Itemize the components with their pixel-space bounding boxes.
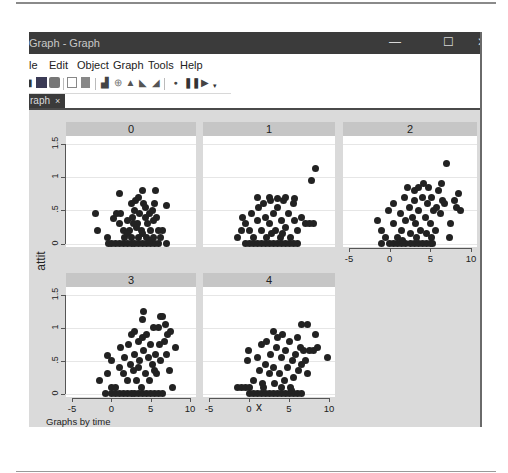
toolbar: ▮ ▟ ⊕ ▲ ◣ ◢ ● ❚❚ ▶ ▾ <box>29 74 480 94</box>
data-point <box>268 230 275 237</box>
x-tick <box>111 398 112 402</box>
data-point <box>143 331 150 338</box>
data-point <box>279 230 286 237</box>
minimize-button[interactable]: — <box>389 35 401 49</box>
data-point <box>147 341 154 348</box>
window-title: Graph - Graph <box>29 37 100 49</box>
data-point <box>116 190 123 197</box>
x-tick <box>390 248 391 252</box>
open-icon[interactable]: ▮ <box>29 77 35 88</box>
x-tick-label: 10 <box>461 253 481 264</box>
data-point <box>159 390 166 397</box>
data-point <box>374 217 381 224</box>
y-tick <box>61 210 65 211</box>
save-icon[interactable] <box>36 77 47 88</box>
gridline <box>203 295 335 296</box>
tab-graph[interactable]: raph× <box>29 94 65 108</box>
data-point <box>146 377 153 384</box>
graph-area[interactable]: attit x Graphs by time 00.511.512-505103… <box>29 110 480 427</box>
pause-icon[interactable]: ❚❚ <box>184 77 195 88</box>
data-point <box>131 328 138 335</box>
data-point <box>266 194 273 201</box>
data-point <box>94 227 101 234</box>
data-point <box>401 194 408 201</box>
data-point <box>159 227 166 234</box>
data-point <box>157 234 164 241</box>
menu-tools[interactable]: Tools <box>148 59 174 71</box>
data-point <box>276 370 283 377</box>
data-point <box>390 200 397 207</box>
dropdown-icon[interactable]: ▾ <box>209 80 220 91</box>
paste-icon[interactable] <box>81 77 90 88</box>
plot-region <box>203 287 335 397</box>
y-tick <box>61 328 65 329</box>
title-bar[interactable]: Graph - Graph — ☐ ✕ <box>29 32 480 54</box>
y-tick <box>61 144 65 145</box>
data-point <box>96 377 103 384</box>
data-point <box>125 341 132 348</box>
toolbar-separator <box>63 78 64 90</box>
gridline <box>203 177 335 178</box>
data-point <box>291 195 298 202</box>
panel-header: 1 <box>203 122 335 136</box>
x-tick <box>209 398 210 402</box>
y-tick-label: 1 <box>50 319 60 335</box>
menu-file[interactable]: le <box>29 59 38 71</box>
maximize-button[interactable]: ☐ <box>443 35 454 49</box>
pointer-icon[interactable]: ▲ <box>125 77 136 88</box>
data-point <box>166 367 173 374</box>
x-tick-label: -5 <box>62 403 82 414</box>
data-point <box>266 370 273 377</box>
data-point <box>390 220 397 227</box>
data-point <box>308 177 315 184</box>
y-axis-title: attit <box>34 251 48 270</box>
data-point <box>263 338 270 345</box>
gridline <box>343 177 477 178</box>
data-point <box>139 187 146 194</box>
record-icon[interactable]: ● <box>170 77 181 88</box>
graph-editor-icon[interactable]: ▟ <box>99 77 110 88</box>
copy-icon[interactable] <box>67 77 77 88</box>
data-point <box>153 214 160 221</box>
add-line-icon[interactable]: ◢ <box>150 77 161 88</box>
data-point <box>140 308 147 315</box>
data-point <box>399 237 406 244</box>
close-button[interactable]: ✕ <box>477 35 482 49</box>
data-point <box>285 210 292 217</box>
data-point <box>266 220 273 227</box>
data-point <box>238 227 245 234</box>
data-point <box>163 202 170 209</box>
data-point <box>302 357 309 364</box>
add-text-icon[interactable]: ◣ <box>137 77 148 88</box>
data-point <box>295 367 302 374</box>
data-point <box>245 347 252 354</box>
menu-graph[interactable]: Graph <box>113 59 144 71</box>
data-point <box>385 207 392 214</box>
x-axis-line <box>72 398 190 399</box>
tab-close-icon[interactable]: × <box>55 96 60 106</box>
properties-icon[interactable]: ⊕ <box>112 77 123 88</box>
data-point <box>279 331 286 338</box>
y-tick-label: .5 <box>50 352 60 368</box>
data-point <box>250 377 257 384</box>
print-icon[interactable] <box>49 77 60 88</box>
data-point <box>155 324 162 331</box>
menu-edit[interactable]: Edit <box>49 59 68 71</box>
panel-header: 3 <box>66 273 196 287</box>
data-point <box>298 390 305 397</box>
menu-help[interactable]: Help <box>180 59 203 71</box>
x-axis-line <box>349 248 471 249</box>
menu-object[interactable]: Object <box>77 59 109 71</box>
data-point <box>135 234 142 241</box>
x-axis-line <box>209 398 329 399</box>
x-tick-label: 10 <box>180 403 200 414</box>
data-point <box>423 230 430 237</box>
data-point <box>246 227 253 234</box>
x-tick <box>471 248 472 252</box>
data-point <box>147 227 154 234</box>
x-tick-label: 0 <box>380 253 400 264</box>
data-point <box>312 165 319 172</box>
data-point <box>286 338 293 345</box>
data-point <box>138 384 145 391</box>
gridline <box>66 177 196 178</box>
